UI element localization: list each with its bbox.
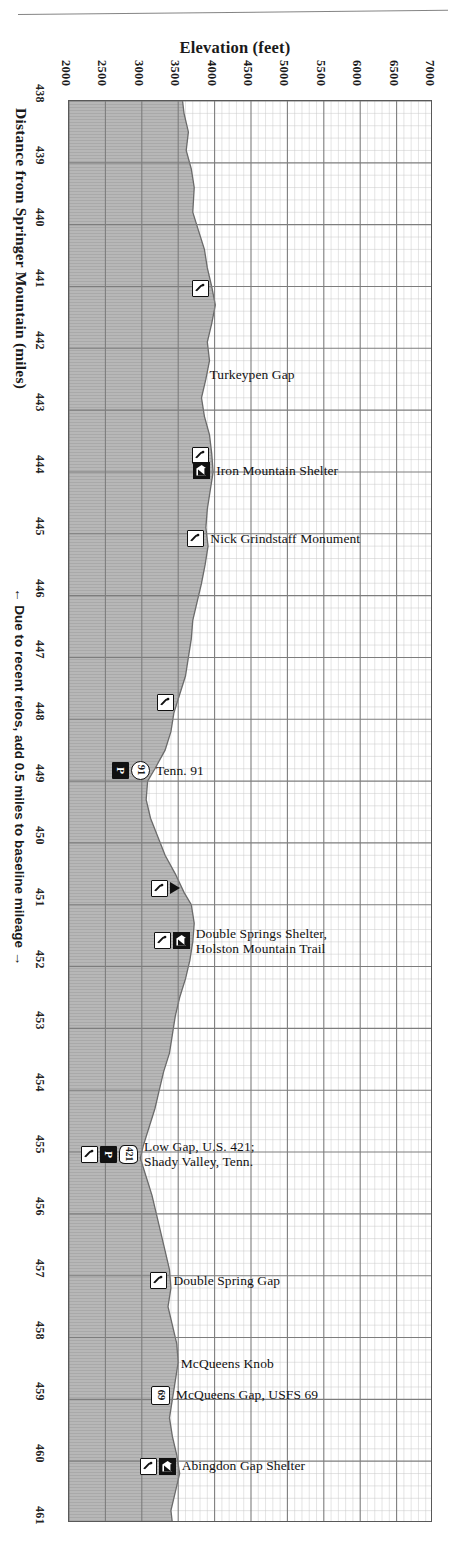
feature-label: McQueens Knob — [181, 1356, 274, 1371]
distance-tick-451: 451 — [32, 888, 47, 907]
distance-tick-457: 457 — [32, 1259, 47, 1278]
distance-tick-446: 446 — [32, 579, 47, 598]
parking-icon[interactable]: P — [112, 762, 129, 779]
feature-label: Nick Grindstaff Monument — [210, 531, 360, 546]
relocation-note: ← Due to recent relos, add 0.5 miles to … — [12, 588, 27, 965]
elevation-profile-page: Elevation (feet) 20002500300035004000450… — [0, 0, 457, 1558]
elevation-tick-4500: 4500 — [240, 60, 255, 86]
elevation-axis-title: Elevation (feet) — [120, 38, 350, 58]
shelter-icon[interactable] — [193, 462, 210, 479]
elevation-tick-5000: 5000 — [276, 60, 291, 86]
elevation-tick-6500: 6500 — [386, 60, 401, 86]
distance-tick-443: 443 — [32, 393, 47, 412]
distance-tick-444: 444 — [32, 455, 47, 474]
water-source-icon[interactable] — [151, 880, 168, 897]
water-source-icon[interactable] — [187, 530, 204, 547]
us-highway-shield-421-icon[interactable]: 421 — [119, 1145, 138, 1164]
distance-tick-439: 439 — [32, 146, 47, 165]
water-source-icon[interactable] — [140, 1458, 157, 1475]
distance-tick-442: 442 — [32, 331, 47, 350]
forest-service-shield-69-icon[interactable]: 69 — [151, 1386, 170, 1405]
elevation-plot-area — [68, 100, 432, 1522]
elevation-tick-3000: 3000 — [131, 60, 146, 86]
distance-tick-441: 441 — [32, 269, 47, 288]
distance-tick-445: 445 — [32, 517, 47, 536]
feature-label: Double Springs Shelter,Holston Mountain … — [196, 926, 327, 956]
feature-label: Iron Mountain Shelter — [216, 463, 338, 478]
distance-tick-438: 438 — [32, 84, 47, 103]
state-route-shield-91-icon[interactable]: 91 — [131, 761, 150, 780]
distance-tick-450: 450 — [32, 826, 47, 845]
distance-axis-title: Distance from Springer Mountain (miles) — [12, 108, 30, 389]
distance-tick-456: 456 — [32, 1197, 47, 1216]
distance-tick-453: 453 — [32, 1011, 47, 1030]
trail-junction-marker-icon — [170, 882, 180, 894]
feature-label: Abingdon Gap Shelter — [182, 1458, 305, 1473]
elevation-tick-2000: 2000 — [58, 60, 73, 86]
elevation-tick-5500: 5500 — [313, 60, 328, 86]
feature-label: Low Gap, U.S. 421;Shady Valley, Tenn. — [144, 1139, 255, 1169]
water-source-icon[interactable] — [192, 280, 209, 297]
distance-tick-460: 460 — [32, 1444, 47, 1463]
distance-tick-455: 455 — [32, 1135, 47, 1154]
elevation-tick-6000: 6000 — [349, 60, 364, 86]
feature-label: Double Spring Gap — [173, 1273, 280, 1288]
water-source-icon[interactable] — [81, 1146, 98, 1163]
shelter-icon[interactable] — [173, 932, 190, 949]
header-rule — [18, 10, 448, 15]
distance-tick-459: 459 — [32, 1382, 47, 1401]
distance-tick-458: 458 — [32, 1321, 47, 1340]
elevation-tick-3500: 3500 — [167, 60, 182, 86]
parking-icon[interactable]: P — [100, 1146, 117, 1163]
feature-label-line2: Holston Mountain Trail — [196, 941, 327, 956]
distance-tick-447: 447 — [32, 640, 47, 659]
feature-label: McQueens Gap, USFS 69 — [176, 1387, 318, 1402]
elevation-tick-4000: 4000 — [204, 60, 219, 86]
distance-tick-449: 449 — [32, 764, 47, 783]
shelter-icon[interactable] — [159, 1458, 176, 1475]
water-source-icon[interactable] — [150, 1272, 167, 1289]
distance-tick-454: 454 — [32, 1073, 47, 1092]
elevation-tick-2500: 2500 — [94, 60, 109, 86]
distance-tick-448: 448 — [32, 702, 47, 721]
feature-label: Turkeypen Gap — [209, 367, 294, 382]
distance-tick-461: 461 — [32, 1506, 47, 1525]
distance-tick-452: 452 — [32, 950, 47, 969]
feature-label: Tenn. 91 — [156, 763, 204, 778]
water-source-icon[interactable] — [192, 447, 209, 464]
water-source-icon[interactable] — [154, 932, 171, 949]
water-source-icon[interactable] — [157, 694, 174, 711]
elevation-tick-7000: 7000 — [422, 60, 437, 86]
distance-tick-440: 440 — [32, 208, 47, 227]
feature-label-line2: Shady Valley, Tenn. — [144, 1154, 255, 1169]
